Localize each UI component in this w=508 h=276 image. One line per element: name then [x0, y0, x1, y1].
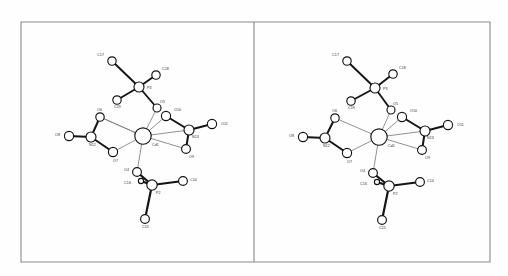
atom-circle-o5: [153, 104, 161, 112]
atom-circle-c19: [113, 96, 121, 104]
atom-circle-c16: [138, 178, 143, 183]
atom-label-n12: N12: [89, 143, 96, 147]
atom-label-c17: C17: [332, 53, 339, 57]
atom-n13: N13: [420, 126, 434, 140]
atom-o4: O4: [360, 169, 377, 178]
atom-label-n13: N13: [427, 136, 434, 140]
atom-o6: O6: [96, 108, 104, 121]
atom-circle-n13: [420, 126, 430, 136]
atom-circle-o10: [397, 112, 406, 121]
atom-label-o9: O9: [425, 156, 430, 160]
atom-label-o4: O4: [124, 168, 129, 172]
atom-label-n13: N13: [192, 135, 199, 139]
atom-circle-c14: [416, 178, 425, 187]
atom-circle-c15: [141, 215, 150, 224]
atom-p3: P3: [370, 83, 388, 93]
atom-label-n12: N12: [323, 144, 330, 148]
atom-c19: C19: [347, 97, 355, 110]
atom-circle-o11: [207, 119, 216, 128]
atom-circle-o4: [133, 168, 142, 177]
atom-label-o7: O7: [113, 159, 118, 163]
atom-o8: O8: [289, 132, 308, 141]
atom-c15: C15: [378, 216, 387, 230]
atom-circle-cd1: [135, 128, 151, 144]
atom-circle-o8: [64, 131, 73, 140]
atom-n12: N12: [320, 133, 330, 148]
atom-label-o8: O8: [289, 134, 294, 138]
atom-label-o11: O11: [457, 123, 464, 127]
atom-label-o6: O6: [97, 108, 102, 112]
atom-label-c15: C15: [142, 225, 149, 229]
atom-label-c19: C19: [348, 106, 355, 110]
atom-cd1: Cd1: [135, 128, 159, 147]
atom-circle-n12: [320, 133, 330, 143]
atom-c16: C16: [124, 178, 144, 185]
covalent-bond-C17-P3: [347, 61, 375, 88]
atom-p2: P2: [147, 180, 161, 195]
atom-circle-c14: [179, 177, 188, 186]
atom-label-c16: C16: [360, 182, 367, 186]
atom-o9: O9: [182, 145, 194, 159]
atom-c16: C16: [360, 179, 380, 186]
atom-label-o5: O5: [160, 100, 165, 104]
atom-c17: C17: [332, 53, 351, 65]
atom-c18: C18: [152, 67, 169, 79]
atom-circle-o7: [108, 147, 117, 156]
atom-label-c15: C15: [379, 226, 386, 230]
atom-c17: C17: [97, 53, 116, 65]
atom-cd1: Cd1: [371, 129, 395, 148]
atom-o5: O5: [387, 102, 398, 114]
atom-c14: C14: [179, 177, 197, 186]
atom-label-o10: O10: [174, 108, 181, 112]
atoms: C17C18C19P3O5O10O11N13O9Cd1O6O8N12O7O4C1…: [289, 53, 464, 230]
atoms: C17C18C19P3O5O10O11N13O9Cd1O6O8N12O7O4C1…: [55, 53, 228, 229]
atom-c14: C14: [416, 178, 434, 187]
atom-o5: O5: [153, 100, 165, 112]
left-stereo-view: C17C18C19P3O5O10O11N13O9Cd1O6O8N12O7O4C1…: [55, 53, 228, 229]
atom-label-c16: C16: [124, 181, 131, 185]
atom-label-o4: O4: [360, 169, 365, 173]
atom-circle-c18: [389, 70, 397, 78]
atom-circle-p3: [370, 83, 380, 93]
atom-circle-cd1: [371, 129, 387, 145]
atom-o11: O11: [443, 120, 463, 129]
right-stereo-view: C17C18C19P3O5O10O11N13O9Cd1O6O8N12O7O4C1…: [289, 53, 464, 230]
atom-o7: O7: [342, 148, 352, 164]
atom-label-c18: C18: [399, 66, 406, 70]
atom-label-cd1: Cd1: [388, 144, 395, 148]
atom-label-o10: O10: [410, 109, 417, 113]
atom-circle-o4: [369, 169, 378, 178]
atom-label-o7: O7: [347, 160, 352, 164]
atom-circle-c16: [374, 179, 379, 184]
covalent-bond-C17-P3: [112, 61, 139, 87]
atom-label-o5: O5: [393, 102, 398, 106]
atom-circle-o5: [387, 106, 395, 114]
atom-label-p3: P3: [147, 86, 152, 90]
stereo-panels: C17C18C19P3O5O10O11N13O9Cd1O6O8N12O7O4C1…: [55, 53, 464, 230]
atom-circle-o9: [418, 146, 427, 155]
atom-circle-n12: [86, 132, 96, 142]
atom-circle-o11: [443, 120, 452, 129]
atom-circle-o10: [161, 111, 170, 120]
atom-label-p2: P2: [156, 191, 161, 195]
atom-o7: O7: [108, 147, 118, 163]
atom-circle-o9: [182, 145, 191, 154]
atom-circle-o6: [331, 114, 339, 122]
atom-label-o9: O9: [189, 155, 194, 159]
atom-circle-o8: [298, 132, 307, 141]
atom-label-o6: O6: [332, 109, 337, 113]
atom-circle-p2: [384, 181, 394, 191]
atom-label-c17: C17: [97, 53, 104, 57]
atom-label-c14: C14: [427, 179, 434, 183]
atom-o8: O8: [55, 131, 74, 140]
atom-circle-p3: [134, 82, 144, 92]
atom-circle-p2: [147, 180, 157, 190]
atom-o11: O11: [207, 119, 227, 128]
atom-label-p3: P3: [383, 87, 388, 91]
atom-circle-c15: [378, 216, 387, 225]
atom-n12: N12: [86, 132, 96, 147]
atom-label-c18: C18: [162, 67, 169, 71]
atom-circle-o7: [342, 148, 351, 157]
atom-label-c19: C19: [114, 105, 121, 109]
atom-c15: C15: [141, 215, 150, 229]
